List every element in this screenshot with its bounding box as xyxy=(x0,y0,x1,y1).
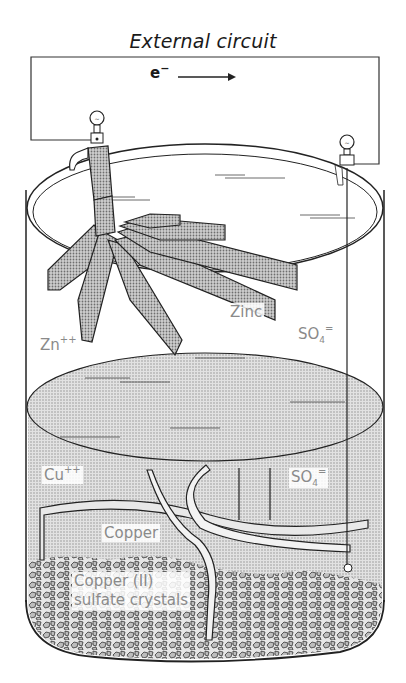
sulfate-upper-subscript: 4 xyxy=(319,335,325,345)
zinc-electrode xyxy=(48,146,297,355)
electron-arrow-icon xyxy=(178,73,236,81)
zinc-terminal-clamp: ~ xyxy=(90,111,104,143)
electron-flow-label: e− xyxy=(150,62,169,82)
sulfate-lower-symbol: SO xyxy=(291,468,312,486)
zinc-label: Zinc xyxy=(228,303,264,321)
sulfate-upper-charge: = xyxy=(325,323,333,334)
sulfate-lower-charge: = xyxy=(318,466,326,477)
copper-label: Copper xyxy=(102,524,160,542)
electron-symbol: e xyxy=(150,64,160,82)
sulfate-lower-label: SO4= xyxy=(289,468,328,488)
external-circuit-title: External circuit xyxy=(0,30,406,52)
copper-ion-label: Cu++ xyxy=(42,466,83,484)
crystals-label-line2: sulfate crystals xyxy=(74,591,188,610)
sulfate-lower-subscript: 4 xyxy=(312,478,318,488)
copper-sulfate-crystals-label: Copper (II) sulfate crystals xyxy=(72,572,190,610)
sulfate-upper-label: SO4= xyxy=(298,325,333,345)
zinc-ion-charge: ++ xyxy=(60,334,77,345)
external-circuit-wire xyxy=(31,57,379,164)
svg-text:~: ~ xyxy=(344,139,349,146)
copper-ion-charge: ++ xyxy=(64,464,81,475)
crystals-label-line1: Copper (II) xyxy=(74,572,188,591)
svg-text:~: ~ xyxy=(94,115,99,122)
copper-ion-symbol: Cu xyxy=(44,466,64,484)
electron-charge: − xyxy=(160,62,169,75)
diagram-stage: ~ ~ External circuit e− Zinc Zn++ SO4= C… xyxy=(0,0,406,683)
sulfate-upper-symbol: SO xyxy=(298,325,319,343)
zinc-ion-symbol: Zn xyxy=(40,336,60,354)
zinc-ion-label: Zn++ xyxy=(40,336,77,354)
